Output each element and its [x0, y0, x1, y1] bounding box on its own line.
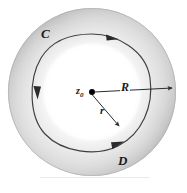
center-point-subscript: 0	[80, 91, 84, 99]
radius-label-r-capital: R	[120, 81, 130, 93]
center-point-label: z0	[76, 86, 83, 99]
contour-label-c: C	[41, 27, 50, 40]
figure-container: C D R r z0	[0, 0, 187, 193]
contour-label-d: D	[118, 154, 127, 167]
annulus-diagram-svg	[0, 0, 187, 193]
radius-label-r-small: r	[100, 105, 104, 116]
